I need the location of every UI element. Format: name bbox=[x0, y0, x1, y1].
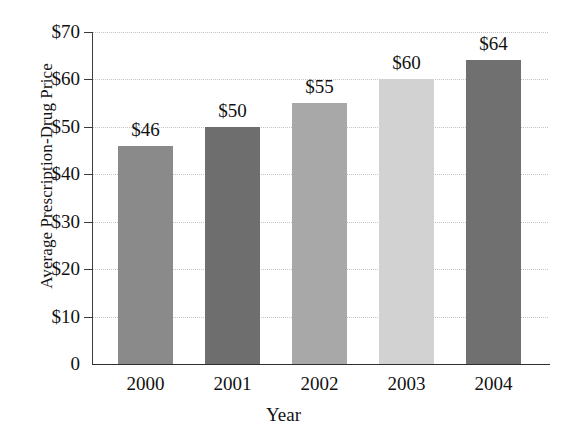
bar-value-label: $55 bbox=[272, 77, 367, 96]
y-axis-tick-mark bbox=[84, 269, 92, 270]
x-axis-tick-label: 2000 bbox=[96, 374, 195, 393]
bar[interactable] bbox=[205, 127, 260, 364]
y-axis-tick-label: $70 bbox=[14, 22, 80, 41]
y-axis-tick-label: 0 bbox=[14, 354, 80, 373]
bar-fill bbox=[466, 60, 521, 364]
x-axis-tick-label: 2002 bbox=[270, 374, 369, 393]
y-axis-tick-label: $40 bbox=[14, 164, 80, 183]
y-axis-tick-label: $50 bbox=[14, 117, 80, 136]
y-axis-tick-label: $20 bbox=[14, 259, 80, 278]
y-axis-tick-label: $30 bbox=[14, 212, 80, 231]
bar-value-label: $60 bbox=[359, 53, 454, 72]
y-axis-line bbox=[92, 32, 93, 365]
y-axis-tick-mark bbox=[84, 32, 92, 33]
bar-chart-figure: Average Prescription-Drug Price 0$10$20$… bbox=[0, 0, 567, 445]
bar[interactable] bbox=[118, 146, 173, 364]
x-axis-title: Year bbox=[0, 404, 567, 426]
chart-title bbox=[150, 0, 450, 2]
y-axis-tick-mark bbox=[84, 79, 92, 80]
bar-value-label: $64 bbox=[446, 34, 541, 53]
y-axis-tick-mark bbox=[84, 127, 92, 128]
y-axis-tick-label: $60 bbox=[14, 69, 80, 88]
y-axis-tick-label: $10 bbox=[14, 307, 80, 326]
bar-fill bbox=[292, 103, 347, 364]
x-axis-tick-label: 2001 bbox=[183, 374, 282, 393]
x-axis-tick-label: 2003 bbox=[357, 374, 456, 393]
x-axis-line bbox=[92, 364, 550, 365]
y-axis-tick-mark bbox=[84, 317, 92, 318]
y-axis-tick-mark bbox=[84, 222, 92, 223]
bar-value-label: $50 bbox=[185, 101, 280, 120]
bar-fill bbox=[205, 127, 260, 364]
bar-fill bbox=[118, 146, 173, 364]
bar[interactable] bbox=[292, 103, 347, 364]
bar[interactable] bbox=[466, 60, 521, 364]
bar[interactable] bbox=[379, 79, 434, 364]
y-axis-tick-mark bbox=[84, 174, 92, 175]
bar-fill bbox=[379, 79, 434, 364]
x-axis-tick-label: 2004 bbox=[444, 374, 543, 393]
bar-value-label: $46 bbox=[98, 120, 193, 139]
